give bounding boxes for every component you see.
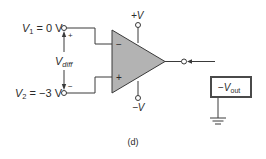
inverting-input-sign: − xyxy=(116,39,122,50)
output-terminal xyxy=(182,59,187,64)
positive-supply-terminal xyxy=(136,23,141,28)
figure-caption: (d) xyxy=(128,137,139,147)
vdiff-label: Vdiff xyxy=(55,55,73,69)
ground-icon xyxy=(210,98,226,124)
v2-terminal xyxy=(62,91,67,96)
positive-supply-label: +V xyxy=(131,10,145,21)
arrow-left-icon xyxy=(187,59,192,63)
v1-label: V1 = 0 V xyxy=(22,22,63,36)
v2-polarity: − xyxy=(68,82,73,91)
negative-supply-label: −V xyxy=(132,102,146,113)
output-wire xyxy=(165,59,215,64)
arrow-down-icon xyxy=(62,84,66,90)
op-amp-circuit-diagram: V1 = 0 V + Vdiff V2 = −3 V − − + +V −V −… xyxy=(0,0,266,159)
negative-supply-terminal xyxy=(136,96,141,101)
noninverting-input-sign: + xyxy=(116,72,122,83)
v1-polarity: + xyxy=(68,31,73,40)
v2-label: V2 = −3 V xyxy=(15,87,63,101)
